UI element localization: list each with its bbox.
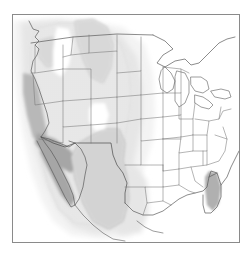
map-figure: [0, 0, 251, 257]
map-canvas: [13, 15, 239, 242]
map-frame: [12, 14, 240, 243]
